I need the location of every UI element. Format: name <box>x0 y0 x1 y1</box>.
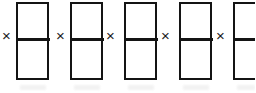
bar-model-divider <box>179 38 213 41</box>
bar-model-rectangle <box>179 2 212 80</box>
times-icon: × <box>216 28 225 43</box>
bar-model-divider <box>70 38 104 41</box>
bar-model-rectangle <box>70 2 103 80</box>
times-icon: × <box>106 28 115 43</box>
scan-smudge <box>237 85 255 90</box>
times-icon: × <box>56 28 65 43</box>
scan-smudge <box>128 85 154 90</box>
times-icon: × <box>161 28 170 43</box>
bar-model-rectangle <box>124 2 157 80</box>
bar-model-rectangle <box>233 2 255 80</box>
figure-canvas: × × × × × <box>0 0 255 93</box>
scan-smudge <box>183 85 209 90</box>
scan-smudge <box>20 85 46 90</box>
bar-model-rectangle <box>16 2 49 80</box>
bar-model-divider <box>233 38 256 41</box>
scan-smudge <box>74 85 100 90</box>
times-icon: × <box>2 28 11 43</box>
bar-model-divider <box>124 38 158 41</box>
bar-model-divider <box>16 38 50 41</box>
